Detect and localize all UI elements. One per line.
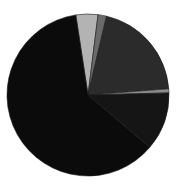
pie-chart	[0, 0, 182, 188]
pie-slices	[7, 14, 169, 176]
